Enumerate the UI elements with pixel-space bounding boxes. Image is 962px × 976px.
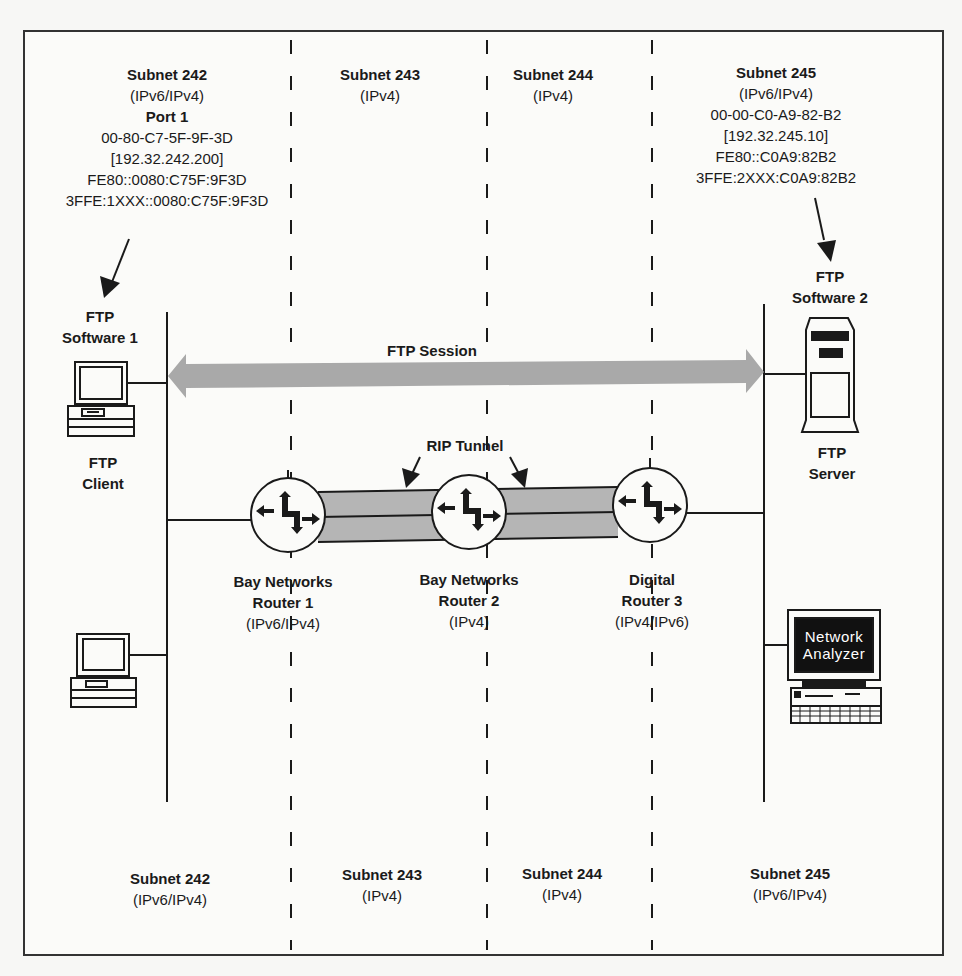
server-software-label: FTP Software 2 bbox=[792, 266, 868, 308]
link-local-address: FE80::0080:C75F:9F3D bbox=[66, 169, 269, 190]
global-address: 3FFE:1XXX::0080:C75F:9F3D bbox=[66, 190, 269, 211]
subnet-245-top-label: Subnet 245 (IPv6/IPv4) 00-00-C0-A9-82-B2… bbox=[696, 62, 856, 188]
client-role-label: FTP Client bbox=[82, 452, 124, 494]
link-local-address: FE80::C0A9:82B2 bbox=[696, 146, 856, 167]
subnet-protocol: (IPv4) bbox=[522, 884, 602, 905]
subnet-protocol: (IPv4) bbox=[340, 85, 420, 106]
server-role-line2: Server bbox=[809, 463, 856, 484]
router-2-label: Bay Networks Router 2 (IPv4) bbox=[419, 569, 518, 632]
rip-tunnel-text: RIP Tunnel bbox=[427, 435, 504, 456]
subnet-243-bottom-label: Subnet 243 (IPv4) bbox=[342, 864, 422, 906]
ipv4-address: [192.32.242.200] bbox=[66, 148, 269, 169]
server-role-label: FTP Server bbox=[809, 442, 856, 484]
router-3-icon bbox=[613, 468, 687, 542]
port-label: Port 1 bbox=[66, 106, 269, 127]
router-protocol: (IPv4) bbox=[419, 611, 518, 632]
router-vendor: Bay Networks bbox=[233, 571, 332, 592]
router-vendor: Bay Networks bbox=[419, 569, 518, 590]
rip-tunnel-label: RIP Tunnel bbox=[427, 435, 504, 456]
subnet-243-top-label: Subnet 243 (IPv4) bbox=[340, 64, 420, 106]
server-role-line1: FTP bbox=[809, 442, 856, 463]
subnet-name: Subnet 244 bbox=[522, 863, 602, 884]
router-2-icon bbox=[432, 475, 506, 549]
subnet-protocol: (IPv6/IPv4) bbox=[696, 83, 856, 104]
subnet-name: Subnet 245 bbox=[750, 863, 830, 884]
server-software-line1: FTP bbox=[792, 266, 868, 287]
subnet-242-top-label: Subnet 242 (IPv6/IPv4) Port 1 00-80-C7-5… bbox=[66, 64, 269, 211]
subnet-name: Subnet 243 bbox=[340, 64, 420, 85]
subnet-protocol: (IPv4) bbox=[513, 85, 593, 106]
server-software-line2: Software 2 bbox=[792, 287, 868, 308]
client-role-line1: FTP bbox=[82, 452, 124, 473]
mac-address: 00-00-C0-A9-82-B2 bbox=[696, 104, 856, 125]
subnet-name: Subnet 242 bbox=[130, 868, 210, 889]
client-software-line2: Software 1 bbox=[62, 327, 138, 348]
subnet-name: Subnet 242 bbox=[66, 64, 269, 85]
router-name: Router 3 bbox=[615, 590, 689, 611]
analyzer-label-line1: Network bbox=[795, 628, 873, 645]
subnet-name: Subnet 245 bbox=[696, 62, 856, 83]
ipv4-address: [192.32.245.10] bbox=[696, 125, 856, 146]
subnet-protocol: (IPv6/IPv4) bbox=[130, 889, 210, 910]
subnet-name: Subnet 243 bbox=[342, 864, 422, 885]
subnet-protocol: (IPv6/IPv4) bbox=[750, 884, 830, 905]
client-pc-icon bbox=[68, 362, 167, 436]
subnet-244-bottom-label: Subnet 244 (IPv4) bbox=[522, 863, 602, 905]
client-software-line1: FTP bbox=[62, 306, 138, 327]
router-name: Router 2 bbox=[419, 590, 518, 611]
workstation-pc-icon bbox=[71, 634, 167, 707]
ftp-session-label: FTP Session bbox=[387, 340, 477, 361]
subnet-name: Subnet 244 bbox=[513, 64, 593, 85]
subnet-protocol: (IPv6/IPv4) bbox=[66, 85, 269, 106]
subnet-244-top-label: Subnet 244 (IPv4) bbox=[513, 64, 593, 106]
mac-address: 00-80-C7-5F-9F-3D bbox=[66, 127, 269, 148]
router-protocol: (IPv4/IPv6) bbox=[615, 611, 689, 632]
router-name: Router 1 bbox=[233, 592, 332, 613]
router-1-label: Bay Networks Router 1 (IPv6/IPv4) bbox=[233, 571, 332, 634]
subnet-protocol: (IPv4) bbox=[342, 885, 422, 906]
client-address-arrow-icon bbox=[100, 239, 129, 298]
router-vendor: Digital bbox=[615, 569, 689, 590]
ftp-session-text: FTP Session bbox=[387, 340, 477, 361]
router-protocol: (IPv6/IPv4) bbox=[233, 613, 332, 634]
router-3-label: Digital Router 3 (IPv4/IPv6) bbox=[615, 569, 689, 632]
global-address: 3FFE:2XXX:C0A9:82B2 bbox=[696, 167, 856, 188]
subnet-242-bottom-label: Subnet 242 (IPv6/IPv4) bbox=[130, 868, 210, 910]
network-analyzer-icon bbox=[764, 610, 881, 723]
server-address-arrow-icon bbox=[815, 198, 836, 262]
ftp-server-icon bbox=[764, 318, 858, 432]
client-role-line2: Client bbox=[82, 473, 124, 494]
router-1-icon bbox=[251, 478, 325, 552]
client-software-label: FTP Software 1 bbox=[62, 306, 138, 348]
analyzer-label-line2: Analyzer bbox=[795, 645, 873, 662]
network-analyzer-screen: Network Analyzer bbox=[795, 628, 873, 662]
subnet-245-bottom-label: Subnet 245 (IPv6/IPv4) bbox=[750, 863, 830, 905]
